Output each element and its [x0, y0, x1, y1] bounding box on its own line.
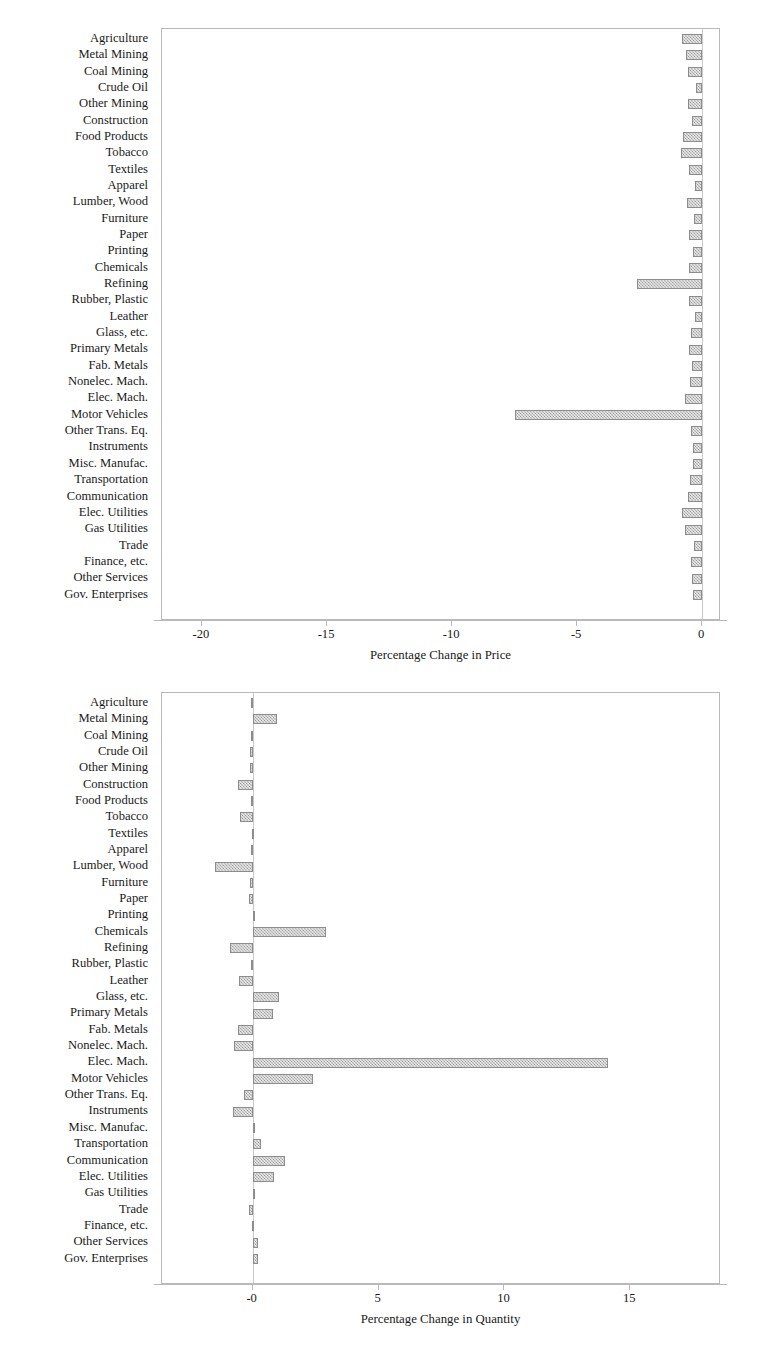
category-label: Other Trans. Eq. [0, 422, 152, 438]
category-label: Textiles [0, 161, 152, 177]
plot-area-quantity [161, 692, 720, 1284]
category-label: Communication [0, 488, 152, 504]
bar-row [162, 472, 719, 488]
category-label: Gas Utilities [0, 520, 152, 536]
bar [688, 99, 702, 109]
bar-row [162, 891, 719, 907]
category-label: Tobacco [0, 144, 152, 160]
bar-row [162, 695, 719, 711]
bar [690, 475, 703, 485]
axis-tick [701, 620, 702, 626]
bar [253, 992, 279, 1002]
axis-tick [629, 1284, 630, 1290]
bar-row [162, 777, 719, 793]
bar-row [162, 711, 719, 727]
category-label: Other Services [0, 1233, 152, 1249]
category-label: Other Mining [0, 759, 152, 775]
bar-row [162, 456, 719, 472]
bar [238, 1025, 253, 1035]
bar-row [162, 293, 719, 309]
category-label: Apparel [0, 841, 152, 857]
category-label: Apparel [0, 177, 152, 193]
category-label: Coal Mining [0, 63, 152, 79]
bar-row [162, 973, 719, 989]
category-label: Instruments [0, 439, 152, 455]
category-labels-quantity: AgricultureMetal MiningCoal MiningCrude … [0, 694, 152, 1266]
category-label: Elec. Utilities [0, 1168, 152, 1184]
category-label: Finance, etc. [0, 553, 152, 569]
bar-row [162, 924, 719, 940]
category-label: Refining [0, 939, 152, 955]
bar [682, 508, 702, 518]
category-label: Rubber, Plastic [0, 292, 152, 308]
bar-row [162, 1055, 719, 1071]
axis-tick-label: -0 [246, 1292, 257, 1305]
category-label: Paper [0, 890, 152, 906]
bar [253, 911, 256, 921]
bar-row [162, 96, 719, 112]
bar [253, 1074, 313, 1084]
category-label: Trade [0, 1201, 152, 1217]
axis-tick [503, 1284, 504, 1290]
category-label: Textiles [0, 825, 152, 841]
bar [694, 541, 703, 551]
bar-row [162, 728, 719, 744]
axis-tick [378, 1284, 379, 1290]
axis-tick [201, 620, 202, 626]
bar [691, 557, 702, 567]
bar [681, 148, 702, 158]
category-label: Chemicals [0, 259, 152, 275]
bar [695, 181, 702, 191]
bar-row [162, 113, 719, 129]
category-label: Communication [0, 1152, 152, 1168]
category-label: Nonelec. Mach. [0, 1037, 152, 1053]
category-label: Gov. Enterprises [0, 1250, 152, 1266]
bar [253, 1238, 258, 1248]
bar-row [162, 489, 719, 505]
category-label: Metal Mining [0, 46, 152, 62]
bar [692, 116, 702, 126]
bar [253, 1139, 262, 1149]
category-label: Other Services [0, 569, 152, 585]
bar [515, 410, 703, 420]
category-label: Metal Mining [0, 710, 152, 726]
bar-row [162, 1202, 719, 1218]
bar [693, 459, 702, 469]
axis-line [154, 1284, 727, 1285]
bar [251, 796, 253, 806]
bar [688, 492, 702, 502]
category-label: Other Mining [0, 95, 152, 111]
bar-row [162, 571, 719, 587]
category-label: Glass, etc. [0, 988, 152, 1004]
bar [694, 214, 702, 224]
bar [253, 1254, 258, 1264]
bar [244, 1090, 253, 1100]
bar [239, 976, 253, 986]
bar-row [162, 957, 719, 973]
bar [691, 328, 702, 338]
category-label: Lumber, Wood [0, 193, 152, 209]
category-label: Tobacco [0, 808, 152, 824]
category-label: Glass, etc. [0, 324, 152, 340]
bar-row [162, 162, 719, 178]
bar-row [162, 744, 719, 760]
bar-row [162, 859, 719, 875]
category-label: Transportation [0, 1135, 152, 1151]
category-label: Misc. Manufac. [0, 1119, 152, 1135]
bars-price [162, 29, 719, 619]
category-label: Furniture [0, 874, 152, 890]
category-label: Elec. Utilities [0, 504, 152, 520]
bar [251, 731, 253, 741]
category-label: Agriculture [0, 30, 152, 46]
axis-tick-label: 15 [623, 1292, 636, 1305]
bar-row [162, 358, 719, 374]
category-label: Food Products [0, 792, 152, 808]
bar [696, 83, 703, 93]
category-label: Leather [0, 308, 152, 324]
bar-row [162, 178, 719, 194]
bar-row [162, 875, 719, 891]
bar [695, 312, 703, 322]
bar-row [162, 31, 719, 47]
bar [251, 698, 253, 708]
bar [249, 1205, 253, 1215]
